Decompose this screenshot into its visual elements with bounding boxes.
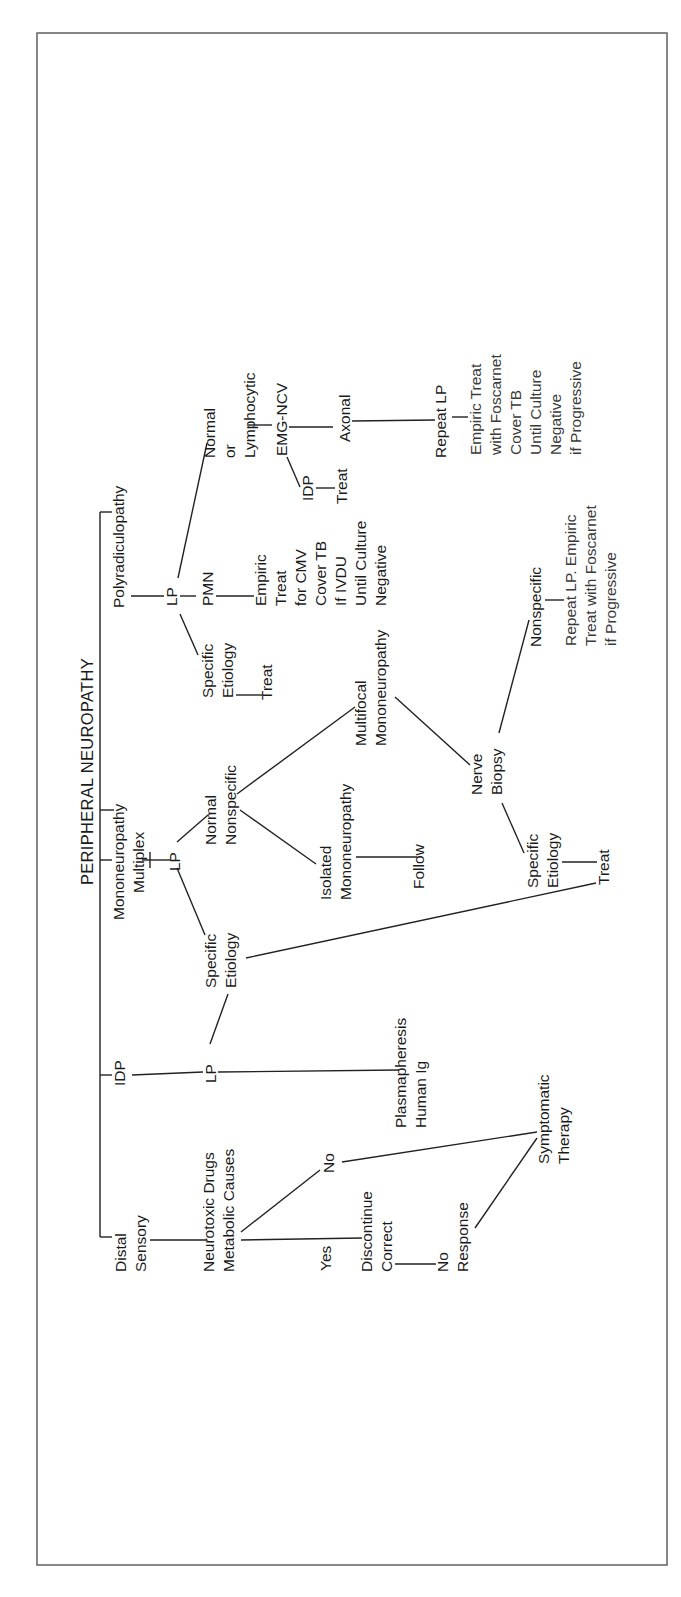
- svg-text:Yes: Yes: [317, 1245, 334, 1271]
- svg-text:LP: LP: [202, 1064, 219, 1083]
- page-title: PERIPHERAL NEUROPATHY: [78, 658, 96, 885]
- node-treat-shared: Treat: [595, 849, 612, 885]
- svg-text:Plasmapheresis: Plasmapheresis: [392, 1017, 409, 1128]
- svg-text:Normal: Normal: [202, 795, 219, 845]
- svg-text:if Progressive: if Progressive: [567, 361, 584, 455]
- svg-text:Neurotoxic Drugs: Neurotoxic Drugs: [200, 1152, 217, 1272]
- svg-text:Metabolic Causes: Metabolic Causes: [220, 1149, 237, 1272]
- svg-text:Treat: Treat: [333, 468, 350, 504]
- node-repeat-lp-empiric: Repeat LP. Empiric Treat with Foscarnet …: [562, 505, 619, 646]
- svg-text:for CMV: for CMV: [292, 549, 309, 607]
- node-biopsy-nonspecific: Nonspecific: [527, 567, 544, 647]
- node-no-response: No Response: [434, 1202, 471, 1272]
- node-poly-idp-treat: Treat: [333, 468, 350, 504]
- node-polyradiculopathy: Polyradiculopathy: [110, 485, 127, 608]
- node-empiric-foscarnet: Empiric Treat with Foscarnet Cover TB Un…: [467, 354, 584, 456]
- svg-text:Nerve: Nerve: [468, 754, 485, 795]
- node-idp-lp: LP: [202, 1064, 219, 1083]
- svg-text:PMN: PMN: [199, 572, 216, 606]
- node-poly-idp: IDP: [299, 475, 316, 501]
- node-normal-nonspecific: Normal Nonspecific: [202, 765, 239, 845]
- svg-text:LP: LP: [163, 587, 180, 606]
- svg-text:No: No: [434, 1252, 451, 1272]
- svg-text:No: No: [320, 1153, 337, 1173]
- svg-text:Negative: Negative: [372, 545, 389, 606]
- svg-text:Polyradiculopathy: Polyradiculopathy: [110, 485, 127, 608]
- node-mono-lp: LP: [166, 852, 183, 871]
- svg-text:Specific: Specific: [199, 643, 216, 698]
- svg-text:Correct: Correct: [378, 1220, 395, 1272]
- node-poly-specific-treat: Treat: [258, 664, 275, 700]
- svg-text:Lymphocytic: Lymphocytic: [241, 372, 258, 458]
- node-biopsy-specific-etiology: Specific Etiology: [524, 833, 561, 888]
- svg-text:Etiology: Etiology: [222, 933, 239, 988]
- svg-text:Symptomatic: Symptomatic: [535, 1074, 552, 1164]
- svg-text:Normal: Normal: [201, 408, 218, 458]
- svg-text:Discontinue: Discontinue: [358, 1191, 375, 1272]
- svg-text:Etiology: Etiology: [544, 833, 561, 888]
- svg-text:IDP: IDP: [111, 1060, 128, 1086]
- svg-text:EMG-NCV: EMG-NCV: [273, 382, 290, 456]
- node-normal-lymphocytic: Normal or Lymphocytic: [201, 372, 258, 458]
- svg-text:Isolated: Isolated: [317, 846, 334, 900]
- svg-text:Therapy: Therapy: [555, 1107, 572, 1164]
- svg-text:Repeat LP: Repeat LP: [432, 385, 449, 458]
- svg-text:LP: LP: [166, 852, 183, 871]
- svg-text:Human Ig: Human Ig: [412, 1061, 429, 1128]
- svg-text:Cover TB: Cover TB: [507, 390, 524, 455]
- svg-text:Specific: Specific: [202, 933, 219, 988]
- svg-text:Mononeuropathy: Mononeuropathy: [372, 629, 389, 746]
- node-neurotoxic-drugs: Neurotoxic Drugs Metabolic Causes: [200, 1149, 237, 1272]
- node-discontinue-correct: Discontinue Correct: [358, 1191, 395, 1272]
- node-yes: Yes: [317, 1245, 334, 1271]
- svg-text:Etiology: Etiology: [219, 643, 236, 698]
- svg-text:with Foscarnet: with Foscarnet: [487, 354, 504, 456]
- node-mononeuropathy-multiplex: Mononeuropathy Multiplex: [110, 803, 147, 920]
- svg-text:Treat: Treat: [258, 664, 275, 700]
- node-symptomatic-therapy: Symptomatic Therapy: [535, 1074, 572, 1164]
- svg-text:Nonspecific: Nonspecific: [222, 765, 239, 845]
- svg-text:Treat: Treat: [595, 849, 612, 885]
- node-repeat-lp: Repeat LP: [432, 385, 449, 458]
- svg-text:Treat: Treat: [272, 570, 289, 606]
- svg-text:Axonal: Axonal: [336, 395, 353, 442]
- svg-text:Nonspecific: Nonspecific: [527, 567, 544, 647]
- title: PERIPHERAL NEUROPATHY: [78, 658, 96, 885]
- svg-text:Multiplex: Multiplex: [130, 832, 147, 893]
- svg-text:Until Culture: Until Culture: [527, 370, 544, 455]
- node-empiric-cmv: Empiric Treat for CMV Cover TB If IVDU U…: [252, 521, 389, 606]
- svg-text:Repeat LP. Empiric: Repeat LP. Empiric: [562, 514, 579, 646]
- svg-text:IDP: IDP: [299, 475, 316, 501]
- node-no: No: [320, 1153, 337, 1173]
- svg-text:Until Culture: Until Culture: [352, 521, 369, 606]
- svg-text:Empiric: Empiric: [252, 554, 269, 606]
- svg-text:Negative: Negative: [547, 394, 564, 455]
- svg-text:If IVDU: If IVDU: [332, 556, 349, 606]
- node-follow: Follow: [410, 843, 427, 889]
- node-mono-specific-etiology: Specific Etiology: [202, 933, 239, 988]
- node-nerve-biopsy: Nerve Biopsy: [468, 748, 505, 795]
- svg-text:Distal: Distal: [112, 1233, 129, 1272]
- svg-text:if Progressive: if Progressive: [602, 552, 619, 646]
- svg-text:Specific: Specific: [524, 833, 541, 888]
- svg-text:Cover TB: Cover TB: [312, 541, 329, 606]
- node-isolated-mononeuropathy: Isolated Mononeuropathy: [317, 783, 354, 900]
- svg-text:or: or: [221, 444, 238, 458]
- svg-text:Multifocal: Multifocal: [352, 681, 369, 746]
- node-poly-lp: LP: [163, 587, 180, 606]
- svg-text:Response: Response: [454, 1202, 471, 1272]
- svg-text:Follow: Follow: [410, 843, 427, 889]
- svg-text:Mononeuropathy: Mononeuropathy: [110, 803, 127, 920]
- svg-text:Mononeuropathy: Mononeuropathy: [337, 783, 354, 900]
- node-poly-specific-etiology: Specific Etiology: [199, 643, 236, 698]
- node-idp: IDP: [111, 1060, 128, 1086]
- node-distal-sensory: Distal Sensory: [112, 1215, 149, 1272]
- svg-text:Treat with Foscarnet: Treat with Foscarnet: [582, 505, 599, 646]
- svg-text:Empiric Treat: Empiric Treat: [467, 363, 484, 455]
- peripheral-neuropathy-flowchart: PERIPHERAL NEUROPATHY Distal Sensory Neu…: [0, 0, 681, 1597]
- node-emg-ncv: EMG-NCV: [273, 382, 290, 456]
- svg-text:Sensory: Sensory: [132, 1215, 149, 1272]
- node-multifocal-mononeuropathy: Multifocal Mononeuropathy: [352, 629, 389, 746]
- node-pmn: PMN: [199, 572, 216, 606]
- svg-text:Biopsy: Biopsy: [488, 748, 505, 795]
